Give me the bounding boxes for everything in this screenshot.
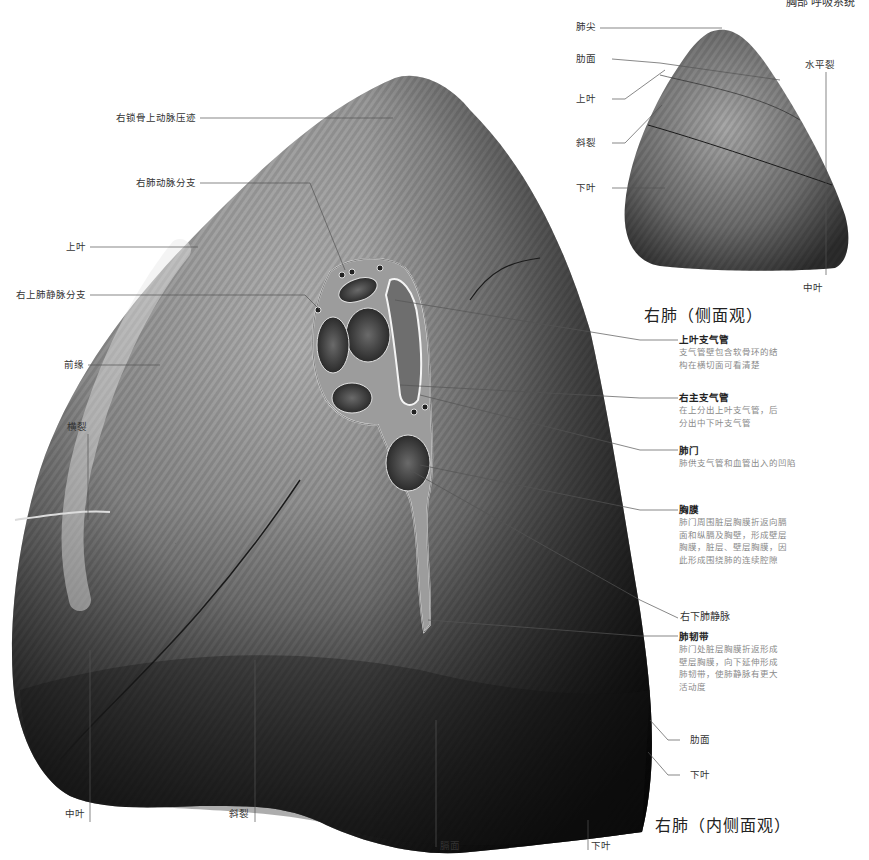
annotation-desc: 支气管壁包含软骨环的结 构在横切面可看清楚 xyxy=(679,346,829,371)
label-upper-lobe-lateral: 上叶 xyxy=(566,93,596,105)
medial-view-title: 右肺（内侧面观） xyxy=(655,812,791,836)
label-costal-surface-lateral: 肋面 xyxy=(566,53,596,65)
label-subclavian-groove: 右锁骨上动脉压迹 xyxy=(60,112,196,124)
annotation-title: 肺韧带 xyxy=(679,630,829,643)
annotation-title: 上叶支气管 xyxy=(679,333,829,346)
annotation-desc: 肺供支气管和血管出入的凹陷 xyxy=(679,457,849,470)
label-oblique-fissure-lateral: 斜裂 xyxy=(566,137,596,149)
annotation-pleura: 胸膜 肺门周围脏层胸膜折返向膈 面和纵膈及胸壁，形成壁层 胸膜，脏层、壁层胸膜，… xyxy=(679,503,829,566)
label-lower-lobe-bottom: 下叶 xyxy=(591,840,611,852)
annotation-pulmonary-ligament: 肺韧带 肺门处脏层胸膜折返形成 壁层胸膜，向下延伸形成 肺韧带，使肺静脉有更大 … xyxy=(679,630,829,693)
lung-illustration xyxy=(0,0,869,860)
annotation-desc: 肺门处脏层胸膜折返形成 壁层胸膜，向下延伸形成 肺韧带，使肺静脉有更大 活动度 xyxy=(679,643,829,693)
label-superior-pulmonary-vein-branch: 右上肺静脉分支 xyxy=(0,289,86,301)
annotation-title: 右主支气管 xyxy=(679,391,829,404)
label-apex: 肺尖 xyxy=(566,21,596,33)
label-oblique-fissure-medial: 斜裂 xyxy=(229,808,249,820)
annotation-desc: 肺门周围脏层胸膜折返向膈 面和纵膈及胸壁，形成壁层 胸膜，脏层、壁层胸膜，因 此… xyxy=(679,516,829,566)
annotation-desc: 在上分出上叶支气管，后 分出中下叶支气管 xyxy=(679,404,829,429)
annotation-right-main-bronchus: 右主支气管 在上分出上叶支气管，后 分出中下叶支气管 xyxy=(679,391,829,429)
label-middle-lobe-medial: 中叶 xyxy=(65,808,85,820)
label-diaphragmatic-surface: 膈面 xyxy=(440,840,460,852)
anatomy-figure: 胸部 呼吸系统 xyxy=(0,0,869,860)
label-anterior-border: 前缘 xyxy=(20,359,84,371)
annotation-title: 胸膜 xyxy=(679,503,829,516)
label-costal-surface-medial: 肋面 xyxy=(690,734,710,746)
label-transverse-fissure: 横裂 xyxy=(67,421,87,433)
label-lower-lobe-right: 下叶 xyxy=(690,769,710,781)
label-middle-lobe-lateral: 中叶 xyxy=(803,282,823,294)
label-horizontal-fissure: 水平裂 xyxy=(805,59,835,71)
annotation-upper-lobe-bronchus: 上叶支气管 支气管壁包含软骨环的结 构在横切面可看清楚 xyxy=(679,333,829,371)
annotation-hilum: 肺门 肺供支气管和血管出入的凹陷 xyxy=(679,444,849,470)
label-pulmonary-artery-branch: 右肺动脉分支 xyxy=(60,177,196,189)
lateral-view-title: 右肺（侧面观） xyxy=(644,302,763,326)
label-lower-lobe-lateral: 下叶 xyxy=(566,182,596,194)
medial-lung xyxy=(12,76,652,853)
label-inferior-pulmonary-vein: 右下肺静脉 xyxy=(680,611,730,623)
label-upper-lobe-medial: 上叶 xyxy=(20,241,86,253)
annotation-title: 肺门 xyxy=(679,444,849,457)
